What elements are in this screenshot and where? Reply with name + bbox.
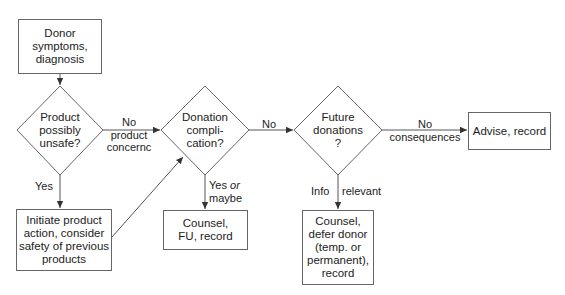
text-line: Future xyxy=(321,111,354,124)
text-line: donations xyxy=(313,124,363,137)
text-line: defer donor xyxy=(309,228,368,241)
text-line: record xyxy=(322,267,355,280)
edge-label-yes-or-maybe: Yes or maybe xyxy=(209,179,242,204)
edge-label-no: No xyxy=(262,118,276,131)
text-line: (temp. or xyxy=(315,241,361,254)
text-line: permanent), xyxy=(307,254,369,267)
edge-label-info: Info xyxy=(311,185,329,198)
text-line: consequences xyxy=(385,131,465,144)
text-line: No xyxy=(104,116,154,129)
text-line: No xyxy=(385,118,465,131)
node-product-action-text: Initiate product action, consider safety… xyxy=(16,209,112,271)
label-maybe: maybe xyxy=(209,192,242,205)
edge-label-no-product-concerns: No product concernc xyxy=(104,116,154,154)
text-line: action, consider xyxy=(24,227,105,240)
text-line: safety of previous xyxy=(19,240,109,253)
text-line: possibly xyxy=(39,124,81,137)
text-line: Counsel, xyxy=(183,217,228,230)
text-line: FU, record xyxy=(178,230,232,243)
text-line: ? xyxy=(335,137,341,150)
node-counsel-defer-text: Counsel, defer donor (temp. or permanent… xyxy=(302,210,374,285)
node-advise-text: Advise, record xyxy=(468,112,551,150)
text-line: Product xyxy=(40,111,80,124)
label-or: or xyxy=(230,179,240,191)
text-line: unsafe? xyxy=(40,137,81,150)
node-product-unsafe-text: Product possibly unsafe? xyxy=(20,104,100,156)
text-line: Advise, record xyxy=(473,125,547,138)
node-complication-text: Donation compli- cation? xyxy=(165,104,245,156)
text-line: Initiate product xyxy=(26,214,101,227)
text-line: products xyxy=(42,253,86,266)
text-line: Counsel, xyxy=(315,215,360,228)
text-line: concernc xyxy=(104,141,154,154)
edge-label-no-consequences: No consequences xyxy=(385,118,465,143)
text-line: compli- xyxy=(186,124,223,137)
node-symptoms-text: Donor symptoms, diagnosis xyxy=(18,19,102,74)
text-line: diagnosis xyxy=(36,53,85,66)
edge-label-yes: Yes xyxy=(35,180,53,193)
text-line: symptoms, xyxy=(32,40,88,53)
text-line: cation? xyxy=(186,137,223,150)
text-line: Donation xyxy=(182,111,228,124)
node-future-donations-text: Future donations ? xyxy=(298,104,378,156)
node-counsel-fu-text: Counsel, FU, record xyxy=(163,210,248,250)
text-line: Donor xyxy=(44,27,75,40)
text-line: product xyxy=(104,129,154,142)
label-yes: Yes xyxy=(209,179,227,191)
edge-label-relevant: relevant xyxy=(342,185,381,198)
